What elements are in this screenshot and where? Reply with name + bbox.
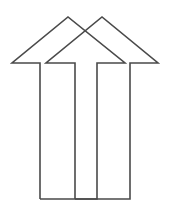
double-up-arrows-diagram <box>0 0 170 212</box>
